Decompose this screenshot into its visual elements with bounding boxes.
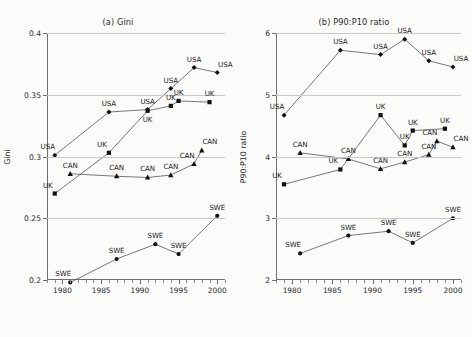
x-tick-label: 1980 bbox=[283, 286, 302, 295]
x-tick-mark-minor bbox=[348, 280, 349, 283]
data-point-swe bbox=[387, 229, 391, 233]
x-tick-mark-minor bbox=[356, 280, 357, 283]
chart-panel-p90p10: (b) P90:P10 ratio P90:P10 ratio 23456198… bbox=[236, 0, 472, 337]
x-tick-mark-minor bbox=[155, 280, 156, 283]
data-point-uk bbox=[403, 143, 407, 147]
point-label-swe: SWE bbox=[209, 203, 225, 212]
point-label-uk: UK bbox=[272, 171, 282, 180]
point-label-swe: SWE bbox=[171, 241, 187, 250]
data-point-uk bbox=[443, 127, 447, 131]
x-tick-mark-minor bbox=[340, 280, 341, 283]
x-tick-mark-minor bbox=[194, 280, 195, 283]
y-tick-label: 0.3 bbox=[29, 152, 41, 161]
y-tick-mark bbox=[43, 33, 47, 34]
x-tick-mark-minor bbox=[389, 280, 390, 283]
y-tick-label: 3 bbox=[265, 214, 270, 223]
x-tick-mark-minor bbox=[381, 280, 382, 283]
data-point-uk bbox=[146, 109, 150, 113]
data-point-swe bbox=[298, 251, 302, 255]
point-label-can: CAN bbox=[202, 137, 217, 146]
data-point-swe bbox=[153, 242, 157, 246]
point-label-uk: UK bbox=[440, 116, 450, 125]
x-tick-mark-major bbox=[140, 280, 141, 284]
x-tick-label: 1990 bbox=[130, 286, 149, 295]
point-label-usa: USA bbox=[218, 60, 232, 69]
y-gridline bbox=[47, 157, 225, 158]
x-tick-label: 2000 bbox=[208, 286, 227, 295]
x-tick-mark-major bbox=[453, 280, 454, 284]
point-label-usa: USA bbox=[41, 142, 55, 151]
series-line-swe bbox=[300, 218, 453, 253]
y-gridline bbox=[276, 218, 461, 219]
data-point-usa bbox=[450, 64, 455, 69]
point-label-can: CAN bbox=[63, 161, 78, 170]
plot-area-p90p10: P90:P10 ratio 2345619801985199019952000U… bbox=[276, 33, 461, 280]
data-point-uk bbox=[169, 104, 173, 108]
point-label-uk: UK bbox=[43, 181, 53, 190]
x-tick-mark-minor bbox=[429, 280, 430, 283]
x-tick-mark-minor bbox=[202, 280, 203, 283]
point-label-can: CAN bbox=[421, 142, 436, 151]
x-tick-label: 1980 bbox=[53, 286, 72, 295]
data-point-can bbox=[191, 161, 196, 166]
x-tick-mark-minor bbox=[171, 280, 172, 283]
data-point-can bbox=[297, 150, 302, 155]
series-line-uk bbox=[55, 101, 210, 194]
x-tick-mark-minor bbox=[445, 280, 446, 283]
panel-title-a: (a) Gini bbox=[0, 17, 236, 27]
point-label-can: CAN bbox=[293, 140, 308, 149]
point-label-usa: USA bbox=[102, 99, 116, 108]
x-tick-mark-minor bbox=[109, 280, 110, 283]
point-label-usa: USA bbox=[164, 76, 178, 85]
data-point-usa bbox=[378, 52, 383, 57]
x-tick-label: 1985 bbox=[323, 286, 342, 295]
x-tick-mark-minor bbox=[186, 280, 187, 283]
data-point-usa bbox=[215, 70, 220, 75]
x-tick-mark-minor bbox=[364, 280, 365, 283]
point-label-uk: UK bbox=[205, 89, 215, 98]
y-gridline bbox=[47, 218, 225, 219]
y-gridline bbox=[276, 33, 461, 34]
point-label-usa: USA bbox=[270, 102, 284, 111]
point-label-can: CAN bbox=[341, 146, 356, 155]
x-tick-mark-minor bbox=[421, 280, 422, 283]
point-label-can: CAN bbox=[180, 151, 195, 160]
panel-title-b: (b) P90:P10 ratio bbox=[236, 17, 472, 27]
x-tick-mark-minor bbox=[405, 280, 406, 283]
data-point-can bbox=[199, 147, 204, 152]
x-tick-mark-minor bbox=[132, 280, 133, 283]
x-tick-mark-major bbox=[101, 280, 102, 284]
x-tick-mark-minor bbox=[324, 280, 325, 283]
y-tick-label: 2 bbox=[265, 276, 270, 285]
data-point-swe bbox=[215, 214, 219, 218]
point-label-usa: USA bbox=[373, 42, 387, 51]
point-label-uk: UK bbox=[408, 118, 418, 127]
x-tick-label: 1985 bbox=[92, 286, 111, 295]
y-tick-mark bbox=[43, 157, 47, 158]
data-point-swe bbox=[176, 252, 180, 256]
x-tick-mark-minor bbox=[86, 280, 87, 283]
data-point-uk bbox=[411, 128, 415, 132]
x-tick-mark-major bbox=[373, 280, 374, 284]
x-tick-mark-minor bbox=[461, 280, 462, 283]
x-tick-label: 1995 bbox=[169, 286, 188, 295]
chart-panel-gini: (a) Gini Gini 0.20.250.30.350.4198019851… bbox=[0, 0, 236, 337]
data-point-uk bbox=[378, 113, 382, 117]
point-label-swe: SWE bbox=[285, 240, 301, 249]
point-label-uk: UK bbox=[376, 102, 386, 111]
data-point-uk bbox=[107, 151, 111, 155]
x-tick-mark-major bbox=[179, 280, 180, 284]
y-tick-label: 0.4 bbox=[29, 29, 41, 38]
y-tick-mark bbox=[272, 218, 276, 219]
data-point-uk bbox=[207, 100, 211, 104]
x-tick-mark-minor bbox=[437, 280, 438, 283]
point-label-uk: UK bbox=[400, 132, 410, 141]
y-tick-mark bbox=[272, 33, 276, 34]
data-point-can bbox=[168, 172, 173, 177]
series-line-usa bbox=[55, 68, 218, 156]
x-tick-mark-minor bbox=[93, 280, 94, 283]
data-point-uk bbox=[338, 167, 342, 171]
point-label-can: CAN bbox=[373, 156, 388, 165]
y-tick-mark bbox=[272, 157, 276, 158]
point-label-swe: SWE bbox=[147, 231, 163, 240]
